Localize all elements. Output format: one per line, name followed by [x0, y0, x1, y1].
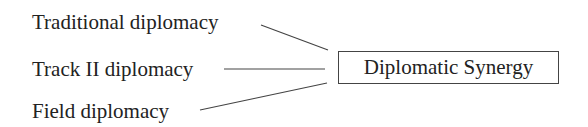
source-node-field-diplomacy: Field diplomacy	[32, 101, 169, 122]
source-node-traditional-diplomacy: Traditional diplomacy	[32, 12, 218, 33]
target-node-box: Diplomatic Synergy	[338, 51, 559, 84]
target-node-diplomatic-synergy: Diplomatic Synergy	[364, 57, 533, 78]
edge-traditional-to-synergy	[261, 25, 328, 50]
source-node-track-ii-diplomacy: Track II diplomacy	[32, 59, 193, 80]
edge-field-to-synergy	[200, 83, 327, 110]
